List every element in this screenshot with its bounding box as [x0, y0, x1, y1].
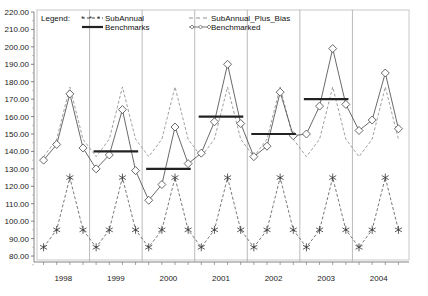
star-icon	[80, 226, 87, 234]
diamond-icon	[224, 60, 232, 68]
x-tick-label: 2004	[370, 274, 388, 283]
star-icon	[66, 174, 73, 182]
star-icon	[277, 174, 284, 182]
diamond-icon	[197, 149, 205, 157]
y-tick-label: 90.00	[9, 235, 30, 244]
star-icon	[172, 174, 179, 182]
series-subannual-plus-bias	[44, 87, 399, 157]
y-tick-label: 220.00	[5, 8, 30, 17]
y-tick-label: 160.00	[5, 113, 30, 122]
legend-entry-benchmarked: Benchmarked	[189, 23, 260, 32]
diamond-icon	[171, 123, 179, 131]
y-tick-label: 170.00	[5, 95, 30, 104]
diamond-icon	[355, 127, 363, 135]
star-icon	[40, 243, 47, 251]
y-tick-label: 190.00	[5, 60, 30, 69]
diamond-icon	[79, 144, 87, 152]
legend: Legend: * * * SubAnnual Benchmarks SubAn…	[41, 14, 290, 32]
legend-entry-benchmarks: Benchmarks	[82, 23, 149, 32]
legend-entry-subannual: * * * SubAnnual	[81, 14, 144, 23]
y-tick-label: 110.00	[5, 200, 29, 209]
y-tick-label: 150.00	[5, 130, 30, 139]
star-icon	[395, 226, 402, 234]
diamond-icon	[394, 125, 402, 133]
legend-entry-bias: SubAnnual_Plus_Bias	[189, 14, 290, 23]
series-layer	[40, 45, 403, 252]
star-icon	[53, 226, 60, 234]
diamond-icon	[237, 120, 245, 128]
legend-label-benchmarks: Benchmarks	[105, 23, 149, 32]
year-separators	[90, 10, 353, 262]
star-icon: *	[81, 14, 84, 23]
star-icon: *	[89, 14, 92, 23]
y-tick-label: 210.00	[5, 25, 30, 34]
diamond-icon	[250, 153, 258, 161]
diamond-icon	[381, 69, 389, 77]
y-tick-label: 180.00	[5, 78, 30, 87]
diamond-icon	[190, 25, 211, 29]
diamond-icon	[132, 167, 140, 175]
diamond-icon	[302, 130, 310, 138]
diamond-icon	[316, 102, 324, 110]
x-tick-label: 2000	[160, 274, 178, 283]
legend-title: Legend:	[41, 14, 70, 23]
diamond-icon	[210, 118, 218, 126]
y-tick-label: 200.00	[5, 43, 30, 52]
diamond-icon	[368, 116, 376, 124]
plot-frame	[37, 10, 409, 260]
y-tick-label: 140.00	[5, 147, 30, 156]
y-tick-label: 80.00	[9, 252, 30, 261]
y-tick-label: 130.00	[5, 165, 30, 174]
star-icon	[132, 226, 139, 234]
series-benchmarked	[44, 49, 399, 201]
diamond-icon	[118, 106, 126, 114]
diamond-icon	[276, 88, 284, 96]
star-icon	[329, 174, 336, 182]
benchmarking-chart: 80.0090.00100.00110.00120.00130.00140.00…	[0, 0, 428, 296]
series-subannual	[44, 178, 399, 248]
x-tick-label: 1998	[54, 274, 72, 283]
star-icon	[264, 226, 271, 234]
x-tick-label: 2001	[212, 274, 230, 283]
legend-label-benchmarked: Benchmarked	[211, 23, 260, 32]
y-tick-label: 100.00	[5, 217, 30, 226]
star-icon: *	[97, 14, 100, 23]
diamond-icon	[329, 45, 337, 53]
legend-label-bias: SubAnnual_Plus_Bias	[211, 14, 290, 23]
diamond-icon	[184, 160, 192, 168]
x-tick-label: 2002	[265, 274, 283, 283]
y-tick-label: 120.00	[5, 182, 30, 191]
star-icon	[119, 174, 126, 182]
star-icon	[290, 226, 297, 234]
legend-label-subannual: SubAnnual	[105, 14, 144, 23]
diamond-icon	[342, 100, 350, 108]
star-icon	[106, 226, 113, 234]
star-icon	[382, 174, 389, 182]
x-tick-label: 1999	[107, 274, 125, 283]
x-tick-label: 2003	[317, 274, 335, 283]
axes: 80.0090.00100.00110.00120.00130.00140.00…	[5, 8, 409, 283]
star-icon	[224, 174, 231, 182]
